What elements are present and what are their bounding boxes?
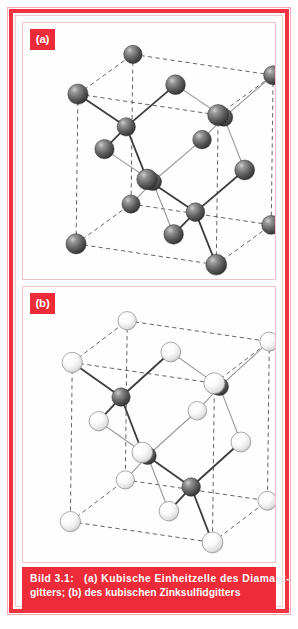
cell-edge	[267, 342, 269, 501]
caption-line-2: gitters; (b) des kubischen Zinksulfidgit…	[30, 586, 269, 600]
atom-light	[258, 491, 275, 510]
atom-dark	[182, 478, 201, 497]
figure-frame: (a) (b) Bild 3.1: (a) Kubische Einheitze…	[9, 9, 289, 613]
atom-light	[161, 342, 181, 362]
atom-light	[260, 332, 275, 351]
diamond-lattice-diagram	[23, 23, 275, 279]
bond	[153, 140, 202, 182]
cell-edge	[271, 75, 273, 225]
figure-caption: Bild 3.1: (a) Kubische Einheitzelle des …	[22, 567, 276, 610]
cell-edge	[212, 383, 214, 542]
atom-light	[188, 401, 207, 420]
atom-dark	[124, 45, 142, 63]
cell-edge	[76, 94, 78, 244]
cell-edge	[78, 94, 218, 115]
cell-edge	[70, 362, 72, 521]
panel-label-a: (a)	[30, 29, 55, 50]
atom-dark	[262, 215, 275, 234]
atom-dark	[235, 160, 255, 180]
caption-line-1: Bild 3.1: (a) Kubische Einheitzelle des …	[30, 572, 269, 586]
atom-dark	[95, 139, 114, 158]
atom-light	[116, 471, 134, 489]
cell-edge	[133, 54, 273, 75]
atom-light	[202, 532, 223, 553]
atom-light	[118, 312, 136, 330]
atoms	[60, 312, 275, 553]
bond	[220, 342, 270, 387]
atom-dark	[193, 130, 212, 149]
atom-dark	[122, 195, 140, 213]
atom-light	[231, 432, 251, 452]
bond	[224, 75, 273, 117]
atom-light	[204, 373, 225, 394]
atom-dark	[117, 118, 135, 136]
atom-dark	[206, 254, 227, 275]
atom-dark	[68, 84, 88, 104]
atom-dark	[186, 203, 205, 222]
bond	[148, 411, 198, 456]
figure-inner-frame: (a) (b) Bild 3.1: (a) Kubische Einheitze…	[15, 15, 283, 607]
panel-label-b: (b)	[30, 293, 55, 314]
panel-diamond-lattice: (a)	[22, 22, 276, 280]
atom-light	[89, 412, 108, 431]
panel-zincblende-lattice: (b)	[22, 286, 276, 563]
zincblende-lattice-diagram	[23, 287, 275, 562]
atom-light	[62, 352, 82, 372]
cell-edge	[72, 362, 214, 383]
atom-light	[60, 511, 80, 531]
atom-dark	[164, 225, 184, 245]
cell-edge	[76, 244, 216, 265]
atom-light	[132, 442, 153, 463]
atom-light	[159, 501, 179, 521]
atom-dark	[166, 75, 186, 95]
cell-edge	[127, 321, 269, 342]
cell-edge	[70, 522, 212, 543]
atom-dark	[66, 234, 86, 254]
atom-dark	[137, 169, 158, 190]
cell-edge	[216, 115, 218, 265]
atom-dark	[112, 388, 130, 406]
atom-dark	[208, 104, 229, 125]
